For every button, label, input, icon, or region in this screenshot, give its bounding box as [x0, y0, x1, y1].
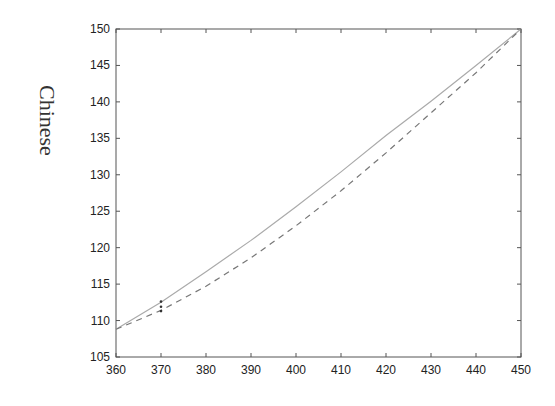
- y-tick-label: 140: [90, 95, 110, 109]
- y-tick-label: 110: [91, 314, 110, 328]
- series-dashed-line: [116, 29, 521, 329]
- y-tick-label: 105: [90, 350, 110, 364]
- x-tick-label: 400: [286, 363, 306, 377]
- y-axis-label: Chinese: [35, 85, 60, 156]
- x-tick-label: 450: [511, 363, 531, 377]
- line-chart: 3603703803904004104204304404501051101151…: [0, 0, 555, 406]
- data-marker: [160, 305, 163, 308]
- chart-root: 3603703803904004104204304404501051101151…: [0, 0, 555, 406]
- y-tick-label: 125: [90, 204, 110, 218]
- x-tick-label: 430: [421, 363, 441, 377]
- x-tick-label: 380: [196, 363, 216, 377]
- x-tick-label: 420: [376, 363, 396, 377]
- y-tick-label: 145: [90, 58, 110, 72]
- y-tick-label: 115: [91, 277, 110, 291]
- x-tick-label: 390: [241, 363, 261, 377]
- y-tick-label: 135: [90, 131, 110, 145]
- series-solid-line: [116, 29, 521, 329]
- y-tick-label: 150: [90, 22, 110, 36]
- x-tick-label: 440: [466, 363, 486, 377]
- y-tick-label: 120: [90, 241, 110, 255]
- data-marker: [160, 310, 163, 313]
- data-marker: [160, 300, 163, 303]
- x-tick-label: 370: [151, 363, 171, 377]
- y-tick-label: 130: [90, 168, 110, 182]
- x-tick-label: 410: [331, 363, 351, 377]
- x-tick-label: 360: [106, 363, 126, 377]
